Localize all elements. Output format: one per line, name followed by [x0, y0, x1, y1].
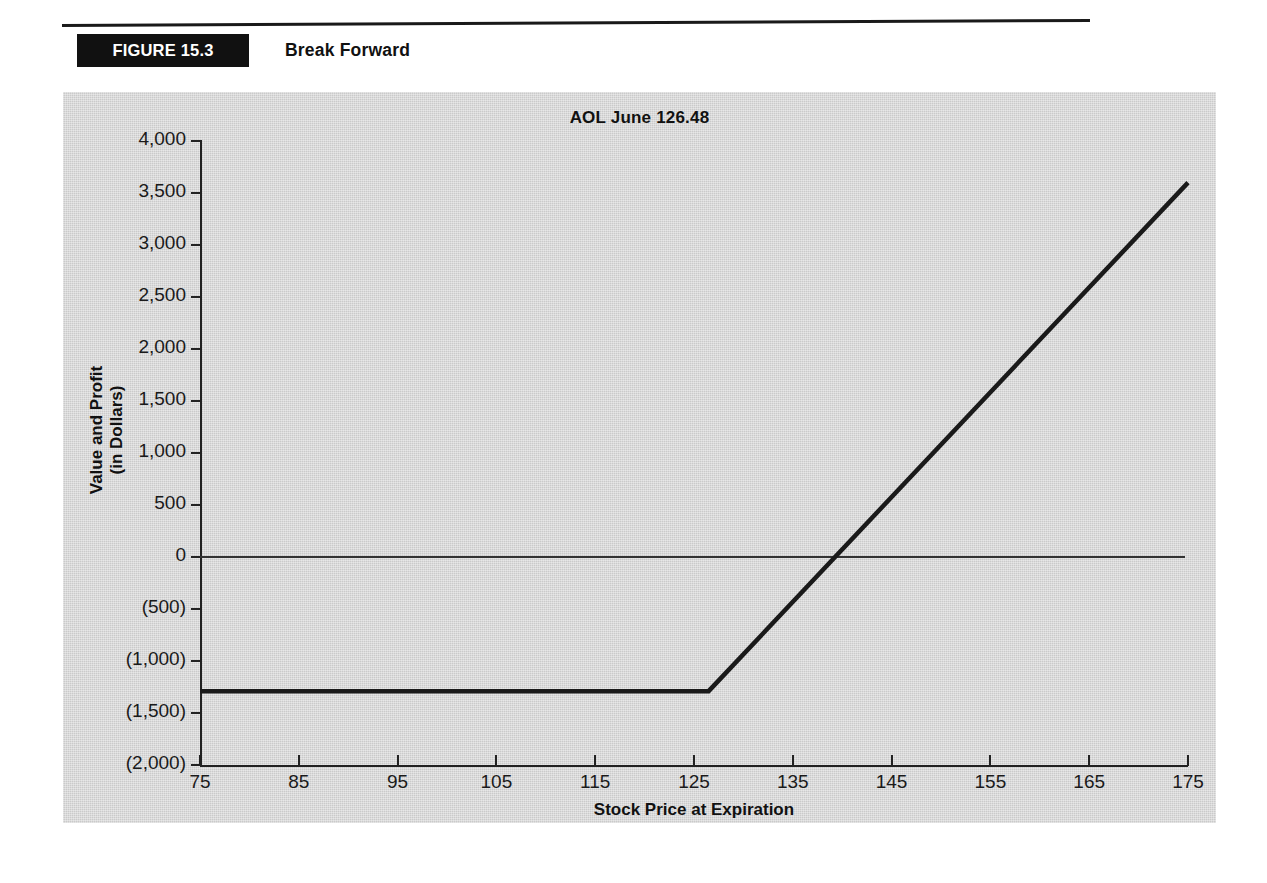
figure-caption: Break Forward — [285, 34, 410, 67]
chart-panel: AOL June 126.48 Value and Profit (in Dol… — [63, 92, 1216, 823]
figure-header-rule — [62, 19, 1090, 27]
figure-label-box: FIGURE 15.3 — [77, 34, 249, 67]
payoff-line-chart — [63, 92, 1216, 823]
figure-label: FIGURE 15.3 — [77, 34, 249, 67]
x-axis-title: Stock Price at Expiration — [200, 800, 1188, 820]
payoff-line-series — [200, 183, 1188, 692]
